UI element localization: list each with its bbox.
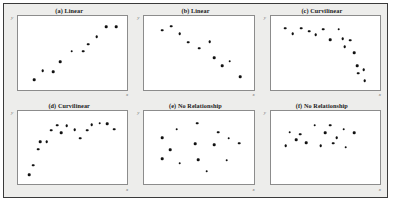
data-point [356,64,359,67]
panel-b-plot-wrap: y x [136,15,254,98]
data-point [344,146,347,149]
data-point [343,46,346,49]
panel-a: (a) Linear y x [6,6,132,101]
panel-f-plot-area [270,110,381,186]
data-point [79,137,82,140]
data-point [342,128,345,131]
data-point [70,50,73,53]
panel-d-plot-wrap: y x [10,110,128,193]
figure-inner: (a) Linear y x (b) Linear y x (c) Curvil… [6,6,385,195]
data-point [291,33,294,36]
data-point [161,29,164,32]
data-point [238,142,241,145]
data-point [226,159,229,162]
data-point [336,136,339,139]
data-point [357,72,360,75]
panel-e-x-axis-label: x [252,187,254,192]
data-point [329,124,332,127]
panel-a-y-axis-label: y [11,15,13,20]
data-point [300,27,303,30]
data-point [239,75,242,78]
panel-d-y-axis-label: y [11,110,13,115]
panel-a-plot-area [17,15,128,91]
panel-b-x-axis-label: x [252,92,254,97]
data-point [221,64,224,67]
data-point [228,137,231,140]
panel-e-plot-wrap: y x [136,110,254,193]
panel-f-plot-wrap: y x [263,110,381,193]
data-point [213,143,216,146]
data-point [32,164,35,167]
data-point [363,68,366,71]
panel-d-plot-area [17,110,128,186]
panel-c: (c) Curvilinear y x [259,6,385,101]
data-point [187,41,190,44]
panel-b-plot-area [143,15,254,91]
data-point [113,128,116,131]
data-point [73,129,76,132]
data-point [313,124,316,127]
panel-d: (d) Curvilinear y x [6,101,132,196]
panel-a-title: (a) Linear [10,6,128,15]
data-point [95,35,98,38]
data-point [87,43,90,46]
data-point [329,39,332,42]
panel-b: (b) Linear y x [132,6,258,101]
data-point [217,131,220,134]
data-point [37,148,40,151]
data-point [98,122,101,125]
data-point [161,136,164,139]
data-point [66,125,69,128]
data-point [170,25,173,28]
data-point [338,28,341,31]
data-point [196,122,199,125]
data-point [295,138,298,141]
data-point [169,149,172,152]
scatterplot-panel-grid: (a) Linear y x (b) Linear y x (c) Curvil… [6,6,385,195]
data-point [59,61,62,64]
data-point [52,70,55,73]
data-point [105,26,108,29]
data-point [45,141,48,144]
panel-f-x-axis-label: x [379,187,381,192]
data-point [115,26,118,29]
data-point [324,132,327,135]
data-point [288,131,291,134]
data-point [161,158,164,161]
data-point [332,142,335,145]
data-point [341,37,344,40]
panel-c-x-axis-label: x [379,92,381,97]
panel-b-title: (b) Linear [136,6,254,15]
panel-f-title: (f) No Relationship [263,101,381,110]
data-point [50,129,53,132]
panel-c-plot-area [270,15,381,91]
data-point [299,133,302,136]
data-point [42,70,45,73]
panel-e-y-axis-label: y [137,110,139,115]
data-point [284,27,287,30]
data-point [205,170,208,173]
data-point [208,40,211,43]
panel-f: (f) No Relationship y x [259,101,385,196]
panel-d-x-axis-label: x [126,187,128,192]
panel-e-plot-area [143,110,254,186]
panel-a-plot-wrap: y x [10,15,128,98]
data-point [194,143,197,146]
panel-c-y-axis-label: y [264,15,266,20]
data-point [106,123,109,126]
data-point [363,79,366,82]
data-point [319,145,322,148]
data-point [228,60,231,63]
data-point [39,141,42,144]
panel-a-x-axis-label: x [126,92,128,97]
data-point [198,47,201,50]
data-point [285,145,288,148]
data-point [86,129,89,132]
panel-c-plot-wrap: y x [263,15,381,98]
data-point [60,132,63,135]
data-point [91,123,94,126]
data-point [213,57,216,60]
data-point [178,33,181,36]
panel-b-y-axis-label: y [137,15,139,20]
data-point [56,124,59,127]
